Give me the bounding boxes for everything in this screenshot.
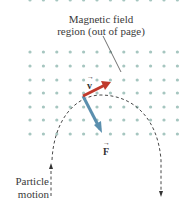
- force-label: →F: [103, 146, 109, 157]
- velocity-label: →v: [87, 80, 92, 91]
- field-dots: [28, 0, 179, 136]
- motion-label: motion: [0, 188, 49, 200]
- particle-label: Particle: [0, 175, 49, 187]
